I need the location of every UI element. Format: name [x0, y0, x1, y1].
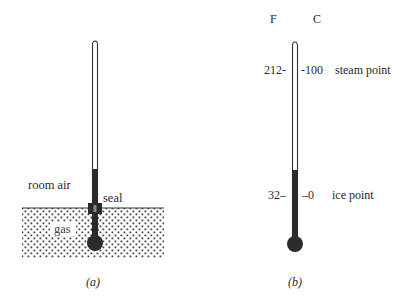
bulb-b [287, 236, 303, 252]
ice-point-f-value: 32– [268, 189, 286, 201]
ice-f: 32 [268, 188, 280, 202]
gas-label: gas [54, 223, 71, 235]
caption-a: (a) [86, 275, 100, 290]
liquid-column-b [292, 170, 298, 242]
ice-point-label: ice point [332, 189, 374, 201]
caption-b: (b) [288, 275, 302, 290]
steam-point-label: steam point [335, 64, 391, 76]
ice-point-c-value: –0 [302, 189, 314, 201]
ice-c: 0 [308, 188, 314, 202]
fahrenheit-header: F [270, 13, 277, 25]
steam-point-f-value: 212- [264, 64, 286, 76]
thermometer-diagram [0, 0, 417, 303]
steam-f: 212 [264, 63, 282, 77]
figure-a [22, 41, 164, 258]
celsius-header: C [313, 13, 321, 25]
room-air-label: room air [28, 179, 71, 191]
bulb-a [87, 235, 103, 251]
steam-point-c-value: -100 [301, 64, 323, 76]
steam-c: 100 [305, 63, 323, 77]
seal-label: seal [103, 192, 122, 204]
